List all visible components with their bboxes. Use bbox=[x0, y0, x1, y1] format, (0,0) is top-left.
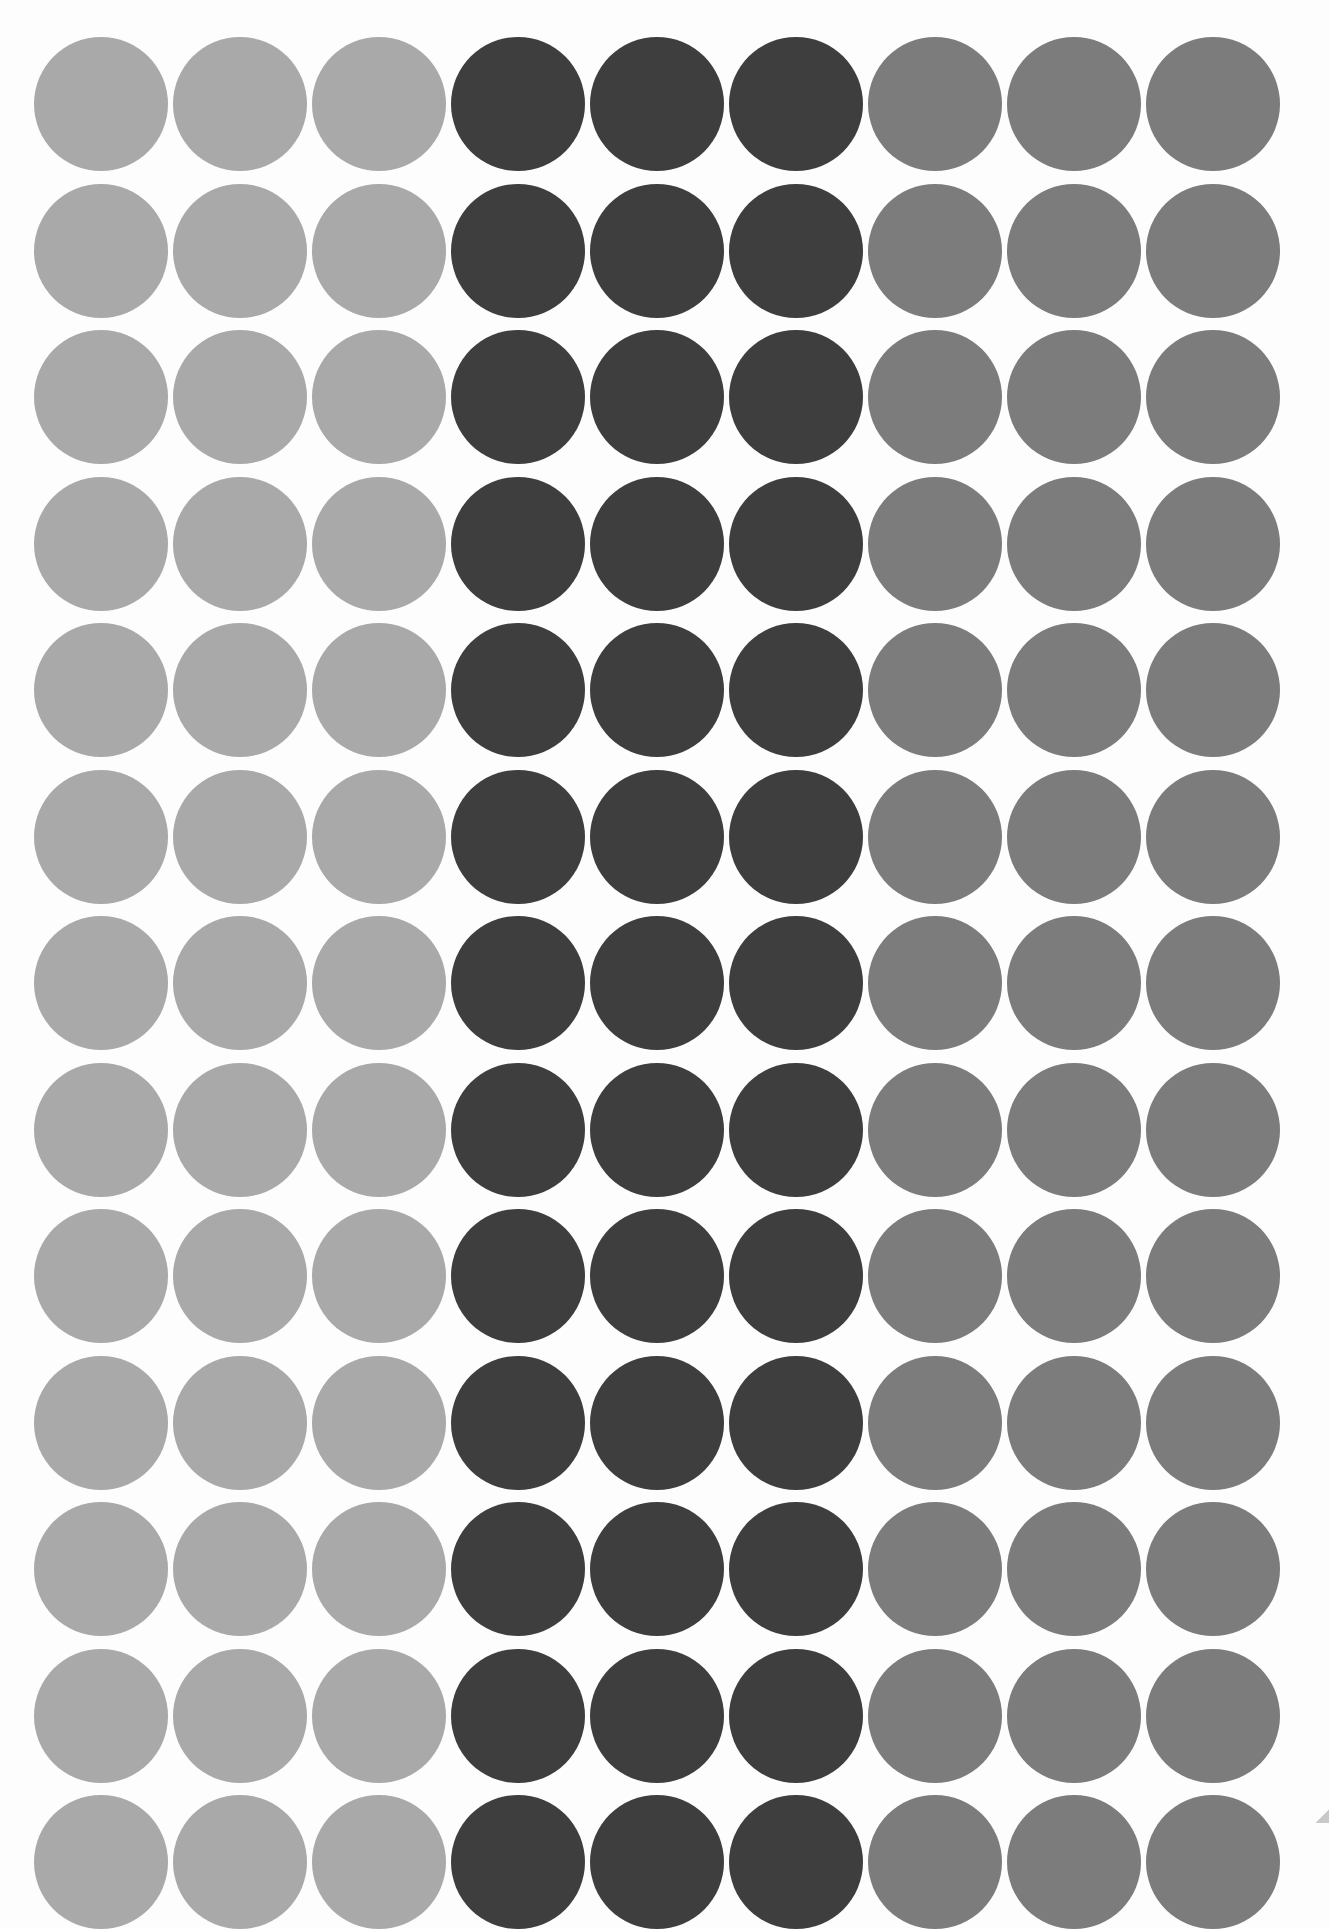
dot-dark-gray bbox=[729, 477, 863, 611]
dot-dark-gray bbox=[451, 916, 585, 1050]
dot-light-gray bbox=[173, 1795, 307, 1929]
dot-medium-gray bbox=[868, 1649, 1002, 1783]
dot-medium-gray bbox=[1146, 184, 1280, 318]
dot-dark-gray bbox=[590, 770, 724, 904]
dot-light-gray bbox=[34, 1649, 168, 1783]
dot-medium-gray bbox=[868, 1795, 1002, 1929]
dot-medium-gray bbox=[1007, 1063, 1141, 1197]
dot-dark-gray bbox=[590, 1209, 724, 1343]
dot-medium-gray bbox=[1007, 330, 1141, 464]
dot-light-gray bbox=[312, 916, 446, 1050]
dot-dark-gray bbox=[729, 184, 863, 318]
dot-light-gray bbox=[34, 1795, 168, 1929]
dot-medium-gray bbox=[868, 37, 1002, 171]
dot-medium-gray bbox=[868, 916, 1002, 1050]
dot-light-gray bbox=[34, 1063, 168, 1197]
dot-dark-gray bbox=[729, 1795, 863, 1929]
dot-light-gray bbox=[312, 770, 446, 904]
dot-medium-gray bbox=[1007, 770, 1141, 904]
dot-light-gray bbox=[34, 1502, 168, 1636]
dot-dark-gray bbox=[590, 330, 724, 464]
dot-light-gray bbox=[312, 37, 446, 171]
dot-light-gray bbox=[34, 770, 168, 904]
dot-medium-gray bbox=[1146, 770, 1280, 904]
dot-light-gray bbox=[34, 1356, 168, 1490]
dot-light-gray bbox=[34, 330, 168, 464]
dot-dark-gray bbox=[729, 1209, 863, 1343]
dot-light-gray bbox=[312, 330, 446, 464]
dot-medium-gray bbox=[1146, 1356, 1280, 1490]
dot-medium-gray bbox=[1007, 184, 1141, 318]
dot-medium-gray bbox=[1146, 330, 1280, 464]
dot-dark-gray bbox=[451, 184, 585, 318]
dot-light-gray bbox=[312, 477, 446, 611]
dot-dark-gray bbox=[729, 1356, 863, 1490]
dot-dark-gray bbox=[451, 1502, 585, 1636]
dot-medium-gray bbox=[868, 770, 1002, 904]
dot-medium-gray bbox=[1007, 1502, 1141, 1636]
dot-medium-gray bbox=[1146, 1063, 1280, 1197]
dot-dark-gray bbox=[590, 1502, 724, 1636]
dot-medium-gray bbox=[1007, 477, 1141, 611]
dot-light-gray bbox=[173, 37, 307, 171]
dot-light-gray bbox=[173, 1356, 307, 1490]
dot-dark-gray bbox=[451, 623, 585, 757]
dot-dark-gray bbox=[590, 1795, 724, 1929]
dot-dark-gray bbox=[729, 916, 863, 1050]
dot-light-gray bbox=[312, 623, 446, 757]
dot-light-gray bbox=[34, 184, 168, 318]
dot-dark-gray bbox=[590, 184, 724, 318]
dot-light-gray bbox=[34, 477, 168, 611]
dot-light-gray bbox=[173, 1502, 307, 1636]
dot-medium-gray bbox=[1007, 623, 1141, 757]
dot-medium-gray bbox=[1007, 37, 1141, 171]
dot-medium-gray bbox=[868, 184, 1002, 318]
dot-dark-gray bbox=[451, 330, 585, 464]
dot-dark-gray bbox=[451, 1795, 585, 1929]
dot-dark-gray bbox=[590, 1356, 724, 1490]
dot-light-gray bbox=[312, 1356, 446, 1490]
dot-medium-gray bbox=[868, 623, 1002, 757]
dot-dark-gray bbox=[590, 916, 724, 1050]
dot-dark-gray bbox=[451, 1356, 585, 1490]
dot-dark-gray bbox=[590, 1063, 724, 1197]
dot-light-gray bbox=[312, 1063, 446, 1197]
dot-light-gray bbox=[312, 1502, 446, 1636]
dot-medium-gray bbox=[1146, 1649, 1280, 1783]
dot-medium-gray bbox=[868, 1063, 1002, 1197]
dot-dark-gray bbox=[729, 623, 863, 757]
dot-medium-gray bbox=[868, 1502, 1002, 1636]
dot-dark-gray bbox=[451, 477, 585, 611]
dot-light-gray bbox=[173, 770, 307, 904]
dot-medium-gray bbox=[1007, 1649, 1141, 1783]
dot-dark-gray bbox=[451, 770, 585, 904]
dot-dark-gray bbox=[729, 37, 863, 171]
page-corner bbox=[1315, 1809, 1329, 1823]
dot-light-gray bbox=[34, 916, 168, 1050]
dot-dark-gray bbox=[729, 1063, 863, 1197]
dot-dark-gray bbox=[451, 37, 585, 171]
dot-light-gray bbox=[173, 184, 307, 318]
dot-medium-gray bbox=[1146, 1502, 1280, 1636]
dot-light-gray bbox=[173, 623, 307, 757]
dot-medium-gray bbox=[868, 477, 1002, 611]
dot-dark-gray bbox=[729, 1502, 863, 1636]
dot-medium-gray bbox=[1146, 916, 1280, 1050]
dot-dark-gray bbox=[590, 37, 724, 171]
dot-light-gray bbox=[173, 1209, 307, 1343]
dot-dark-gray bbox=[451, 1063, 585, 1197]
dot-medium-gray bbox=[1146, 1209, 1280, 1343]
dot-light-gray bbox=[173, 916, 307, 1050]
dot-light-gray bbox=[312, 1649, 446, 1783]
dot-medium-gray bbox=[1146, 37, 1280, 171]
dot-dark-gray bbox=[590, 623, 724, 757]
dot-medium-gray bbox=[868, 330, 1002, 464]
dot-medium-gray bbox=[1007, 916, 1141, 1050]
dot-medium-gray bbox=[1007, 1356, 1141, 1490]
dot-light-gray bbox=[312, 184, 446, 318]
dot-medium-gray bbox=[1007, 1209, 1141, 1343]
dot-medium-gray bbox=[1146, 623, 1280, 757]
dot-light-gray bbox=[312, 1209, 446, 1343]
dot-dark-gray bbox=[451, 1209, 585, 1343]
